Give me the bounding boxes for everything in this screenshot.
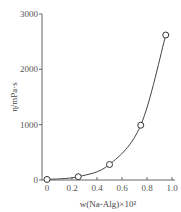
y-axis: 0100020003000 bbox=[20, 9, 42, 185]
data-point-marker bbox=[138, 122, 144, 128]
y-tick-label: 3000 bbox=[20, 9, 39, 19]
y-tick-label: 0 bbox=[34, 175, 39, 185]
line-chart: 0100020003000 00.20.40.60.81.0 η/mPa·s w… bbox=[0, 0, 181, 212]
data-markers bbox=[44, 32, 169, 182]
x-tick-label: 0.4 bbox=[91, 183, 103, 193]
x-tick-label: 1.0 bbox=[166, 183, 178, 193]
data-curve bbox=[47, 35, 166, 179]
x-axis: 00.20.40.60.81.0 bbox=[42, 177, 178, 193]
data-point-marker bbox=[107, 162, 113, 168]
data-point-marker bbox=[44, 176, 50, 182]
x-tick-label: 0.6 bbox=[116, 183, 128, 193]
y-axis-title: η/mPa·s bbox=[9, 82, 19, 112]
x-tick-label: 0.8 bbox=[141, 183, 153, 193]
x-tick-label: 0 bbox=[45, 183, 50, 193]
data-point-marker bbox=[75, 174, 81, 180]
y-tick-label: 1000 bbox=[20, 120, 39, 130]
data-point-marker bbox=[163, 32, 169, 38]
x-axis-title: w(Na-Alg)×10² bbox=[80, 199, 137, 209]
y-tick-label: 2000 bbox=[20, 64, 39, 74]
x-tick-label: 0.2 bbox=[66, 183, 77, 193]
